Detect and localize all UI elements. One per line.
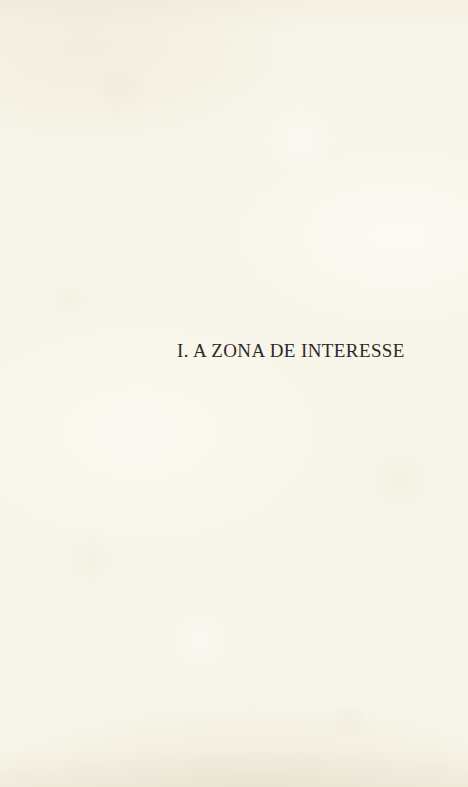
paper-texture <box>0 0 468 787</box>
book-page: I. A ZONA DE INTERESSE <box>0 0 468 787</box>
part-title: I. A ZONA DE INTERESSE <box>177 340 405 363</box>
